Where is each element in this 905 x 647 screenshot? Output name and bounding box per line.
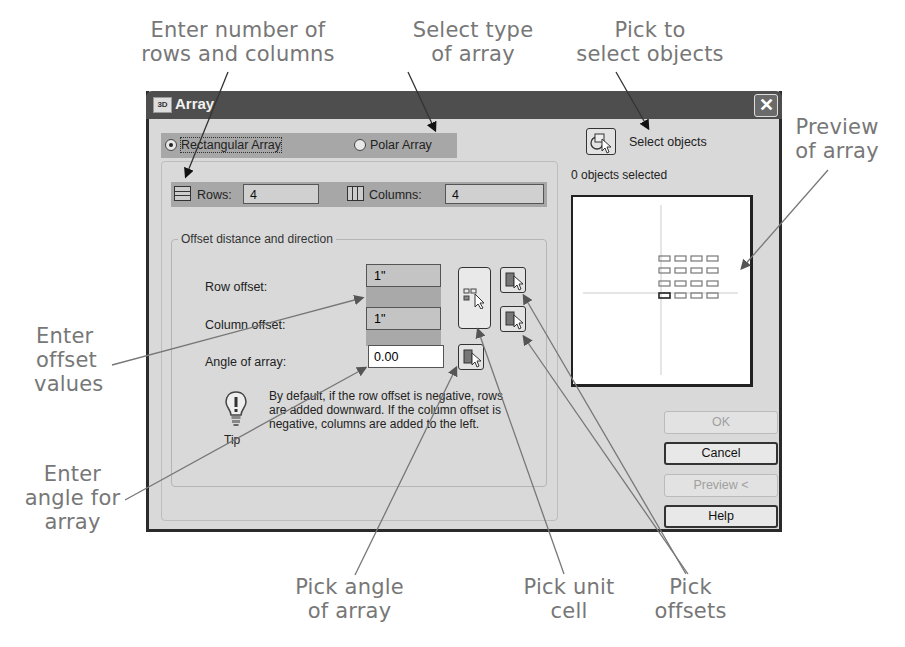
rectangular-array-label: Rectangular Array bbox=[181, 138, 281, 152]
column-offset-input[interactable]: 1" bbox=[366, 307, 441, 330]
angle-label: Angle of array: bbox=[205, 355, 286, 369]
callout-line: Enter bbox=[20, 324, 120, 348]
rows-columns-bar: Rows: 4 Columns: 4 bbox=[171, 182, 547, 207]
tip-text: By default, if the row offset is negativ… bbox=[269, 389, 504, 431]
autocad-app-icon: 3D bbox=[153, 97, 172, 113]
radio-unselected-icon bbox=[354, 139, 366, 151]
pick-row-offset-button[interactable] bbox=[500, 267, 526, 293]
select-objects-label: Select objects bbox=[629, 135, 707, 149]
callout-line: array bbox=[15, 510, 130, 534]
callout-preview: Preview of array bbox=[782, 115, 892, 163]
callout-line: of array bbox=[782, 139, 892, 163]
row-offset-label: Row offset: bbox=[205, 280, 267, 294]
callout-line: Preview bbox=[782, 115, 892, 139]
pick-point-icon bbox=[503, 309, 525, 331]
columns-input[interactable]: 4 bbox=[445, 184, 544, 204]
pick-column-offset-button[interactable] bbox=[500, 306, 526, 332]
objects-selected-count: 0 objects selected bbox=[571, 168, 667, 182]
select-objects-icon bbox=[588, 130, 614, 154]
cancel-button[interactable]: Cancel bbox=[664, 442, 778, 465]
callout-pick-unit-cell: Pick unit cell bbox=[514, 575, 624, 623]
callout-line: values bbox=[20, 372, 120, 396]
callout-line: of array bbox=[282, 599, 417, 623]
callout-line: Enter number of bbox=[128, 18, 348, 42]
callout-line: rows and columns bbox=[128, 42, 348, 66]
columns-icon bbox=[347, 186, 364, 201]
callout-line: select objects bbox=[560, 42, 740, 66]
pick-unit-cell-button[interactable] bbox=[458, 267, 491, 329]
row-offset-input[interactable]: 1" bbox=[366, 264, 441, 287]
callout-rows-columns: Enter number of rows and columns bbox=[128, 18, 348, 66]
callout-offset-values: Enter offset values bbox=[20, 324, 120, 396]
lightbulb-tip-icon bbox=[224, 390, 248, 428]
callout-select-objects: Pick to select objects bbox=[560, 18, 740, 66]
preview-button[interactable]: Preview < bbox=[664, 474, 778, 497]
pick-angle-button[interactable] bbox=[458, 344, 484, 370]
rows-icon bbox=[174, 186, 191, 201]
close-button[interactable]: ✕ bbox=[754, 94, 778, 117]
array-preview-graphic bbox=[573, 197, 750, 384]
array-preview-pane bbox=[571, 195, 753, 387]
callout-array-type: Select type of array bbox=[398, 18, 548, 66]
offset-group-label: Offset distance and direction bbox=[178, 232, 336, 246]
callout-line: offsets bbox=[638, 599, 743, 623]
columns-label: Columns: bbox=[369, 188, 422, 202]
ok-button[interactable]: OK bbox=[664, 411, 778, 434]
callout-line: Pick angle bbox=[282, 575, 417, 599]
column-offset-label: Column offset: bbox=[205, 318, 285, 332]
callout-line: Pick unit bbox=[514, 575, 624, 599]
callout-pick-angle: Pick angle of array bbox=[282, 575, 417, 623]
array-type-group: Rectangular Array Polar Array bbox=[161, 133, 457, 158]
callout-line: angle for bbox=[15, 486, 130, 510]
callout-angle: Enter angle for array bbox=[15, 462, 130, 534]
rows-label: Rows: bbox=[197, 188, 232, 202]
pick-point-icon bbox=[461, 347, 483, 369]
unit-cell-pick-icon bbox=[463, 287, 487, 309]
callout-line: Enter bbox=[15, 462, 130, 486]
polar-array-label: Polar Array bbox=[370, 138, 432, 152]
callout-line: Pick bbox=[638, 575, 743, 599]
rows-input[interactable]: 4 bbox=[243, 184, 319, 204]
title-bar[interactable]: 3D Array ✕ bbox=[146, 91, 782, 119]
help-button[interactable]: Help bbox=[664, 505, 778, 528]
callout-line: offset bbox=[20, 348, 120, 372]
tip-label: Tip bbox=[224, 433, 240, 447]
callout-line: Pick to bbox=[560, 18, 740, 42]
dialog-title: Array bbox=[175, 95, 214, 112]
select-objects-button[interactable] bbox=[586, 128, 616, 155]
callout-line: of array bbox=[398, 42, 548, 66]
callout-line: Select type bbox=[398, 18, 548, 42]
polar-array-radio[interactable]: Polar Array bbox=[354, 138, 432, 152]
angle-input[interactable]: 0.00 bbox=[368, 345, 444, 368]
rectangular-array-radio[interactable]: Rectangular Array bbox=[165, 138, 281, 152]
callout-line: cell bbox=[514, 599, 624, 623]
offset-fields-highlight: 1" 1" bbox=[366, 264, 441, 346]
callout-pick-offsets: Pick offsets bbox=[638, 575, 743, 623]
radio-selected-icon bbox=[165, 139, 177, 151]
array-dialog: 3D Array ✕ Rectangular Array Polar Array… bbox=[146, 91, 782, 532]
pick-point-icon bbox=[503, 270, 525, 292]
